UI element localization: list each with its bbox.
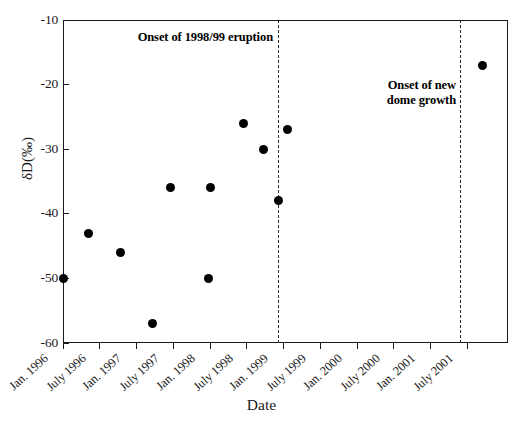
y-tick-label--10: -10 [18, 13, 58, 27]
x-tick-label-jan-1998: Jan. 1998 [154, 352, 198, 393]
annotation-onset-dome-growth: Onset of new dome growth [387, 78, 456, 107]
x-tick-mark-jan-1996 [63, 343, 64, 349]
x-tick-mark-jan-1999 [283, 343, 284, 349]
x-tick-label-jan-1996: Jan. 1996 [7, 352, 51, 393]
y-tick-mark--30 [63, 149, 69, 150]
data-point [239, 119, 248, 128]
data-point [259, 145, 268, 154]
vline-onset-eruption [278, 20, 279, 343]
x-tick-mark-july-1999 [320, 343, 321, 349]
x-tick-label-july-1998: July 1998 [191, 352, 235, 394]
x-tick-label-jan-1999: Jan. 1999 [227, 352, 271, 393]
x-tick-mark-jan-2000 [357, 343, 358, 349]
x-tick-mark-july-1996 [99, 343, 100, 349]
x-tick-label-jan-2001: Jan. 2001 [374, 352, 418, 393]
figure-scatter-plot: δD(‰) -10 -20 -30 -40 -50 -60 Jan. 1996 … [0, 0, 523, 424]
x-tick-label-jan-2000: Jan. 2000 [301, 352, 345, 393]
y-tick-label--20: -20 [18, 77, 58, 91]
y-tick-label--40: -40 [18, 206, 58, 220]
y-tick-label--60: -60 [18, 336, 58, 350]
data-point [84, 229, 93, 238]
x-tick-label-july-1999: July 1999 [264, 352, 308, 394]
y-axis-label: δD(‰) [19, 104, 36, 214]
x-tick-mark-jan-1998 [210, 343, 211, 349]
y-tick-mark--40 [63, 213, 69, 214]
x-tick-mark-july-2000 [393, 343, 394, 349]
x-tick-mark-july-1997 [173, 343, 174, 349]
y-tick-label--30: -30 [18, 142, 58, 156]
data-point [59, 274, 68, 283]
data-point [478, 61, 487, 70]
x-tick-label-july-1997: July 1997 [117, 352, 161, 394]
plot-area [63, 20, 508, 343]
x-tick-mark-jan-2001 [430, 343, 431, 349]
x-tick-label-july-2001: July 2001 [411, 352, 455, 394]
data-point [204, 274, 213, 283]
x-tick-mark-jan-1997 [136, 343, 137, 349]
y-tick-mark--20 [63, 84, 69, 85]
y-tick-label--50: -50 [18, 271, 58, 285]
x-tick-label-july-2000: July 2000 [338, 352, 382, 394]
x-tick-label-jan-1997: Jan. 1997 [80, 352, 124, 393]
x-tick-mark-july-2001 [467, 343, 468, 349]
x-tick-mark-july-1998 [246, 343, 247, 349]
y-tick-mark--10 [63, 20, 69, 21]
x-axis-label: Date [0, 396, 523, 414]
annotation-onset-eruption: Onset of 1998/99 eruption [138, 30, 273, 45]
vline-onset-dome-growth [460, 20, 461, 343]
x-tick-label-july-1996: July 1996 [44, 352, 88, 394]
